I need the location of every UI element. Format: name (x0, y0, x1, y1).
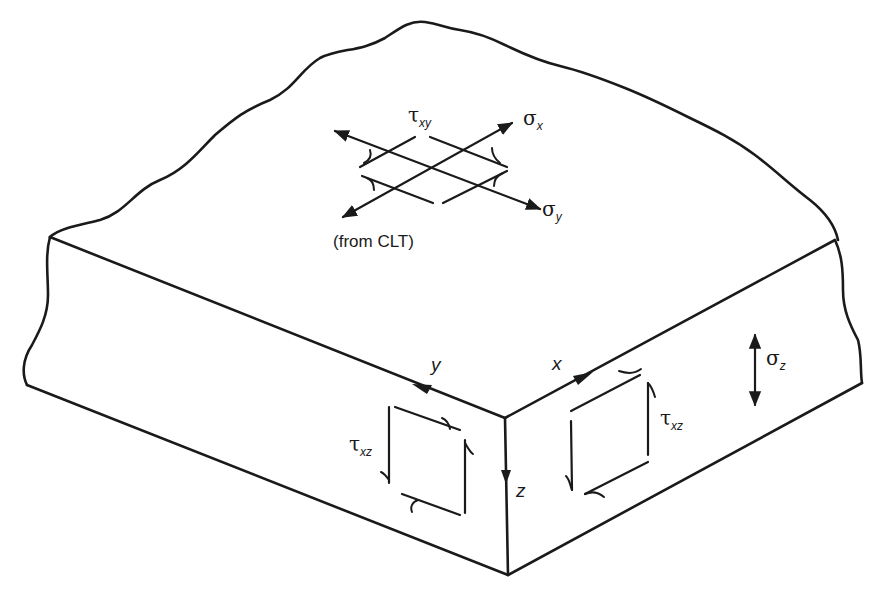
top-right-edge (505, 240, 835, 418)
shear-hook (494, 173, 503, 186)
sigma-y-label: σy (542, 197, 562, 221)
shear-hook (411, 500, 418, 512)
shear-segment-bottom (402, 494, 460, 515)
front-vertical-edge (505, 418, 508, 575)
shear-segment-bottom (585, 462, 648, 494)
laminate-block-diagram (0, 0, 880, 589)
shear-segment-bottom-left (362, 176, 433, 203)
left-face-shear-element (381, 407, 473, 515)
z-axis-label: z (516, 480, 526, 502)
axis-arrows (412, 372, 593, 484)
x-axis-arrowhead (573, 372, 593, 385)
y-axis-label: y (431, 354, 441, 376)
tau-xz-right-label: τxz (660, 406, 683, 430)
y-axis-arrowhead (412, 384, 432, 394)
z-axis-arrowhead (501, 470, 511, 484)
shear-hook (619, 369, 641, 373)
x-axis-label: x (552, 353, 562, 375)
top-broken-edge (50, 22, 838, 240)
from-clt-note: (from CLT) (333, 232, 414, 252)
tau-xy-label: τxy (408, 103, 431, 127)
shear-hook (465, 443, 473, 454)
sigma-x-label: σx (523, 106, 543, 130)
sigma-y-arrow (335, 131, 540, 209)
in-plane-stress-element (335, 123, 540, 217)
top-left-edge (50, 237, 505, 418)
bottom-right-edge (508, 383, 862, 575)
shear-segment-left (571, 421, 572, 490)
sigma-z-label: σz (766, 346, 786, 370)
left-broken-edge (24, 237, 50, 385)
sigma-x-arrow (343, 123, 512, 217)
shear-hook (585, 492, 604, 497)
block-outline (24, 22, 862, 575)
shear-segment-top-left (360, 137, 415, 167)
right-face-shear-element (566, 369, 655, 497)
right-broken-edge (835, 240, 862, 383)
shear-hook (381, 472, 389, 480)
tau-xz-left-label: τxz (349, 432, 372, 456)
bottom-left-edge (27, 385, 508, 575)
